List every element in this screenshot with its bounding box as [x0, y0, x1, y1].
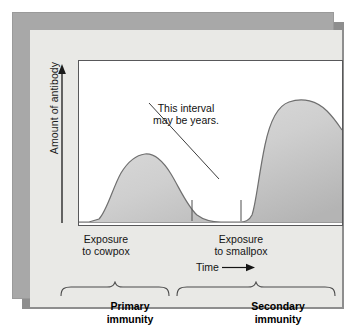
secondary-immunity-label: Secondary immunity	[205, 300, 351, 325]
figure-frame: Amount of antibody	[12, 12, 334, 299]
phase-brackets	[30, 30, 342, 307]
primary-immunity-bracket	[61, 282, 169, 296]
primary-immunity-label: Primary immunity	[72, 300, 188, 325]
primary-immunity-line1: Primary	[72, 300, 188, 313]
figure-card: Amount of antibody	[30, 30, 342, 307]
secondary-immunity-line1: Secondary	[205, 300, 351, 313]
secondary-immunity-bracket	[177, 282, 335, 296]
primary-immunity-line2: immunity	[72, 313, 188, 325]
secondary-immunity-line2: immunity	[205, 313, 351, 325]
